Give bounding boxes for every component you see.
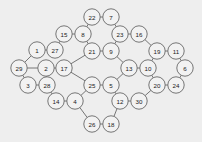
- graph-edge: [71, 55, 85, 63]
- graph-edge: [80, 108, 87, 118]
- graph-edge: [152, 58, 153, 61]
- node-circle[interactable]: [11, 60, 27, 76]
- graph-node[interactable]: 25: [84, 77, 100, 93]
- graph-node[interactable]: 3: [20, 77, 36, 93]
- node-circle[interactable]: [103, 116, 119, 132]
- graph-edge: [23, 75, 24, 78]
- node-circle[interactable]: [112, 93, 128, 109]
- graph-edge: [114, 109, 117, 117]
- node-circle[interactable]: [131, 93, 147, 109]
- graph-node[interactable]: 1: [29, 42, 45, 58]
- graph-node[interactable]: 19: [149, 43, 165, 59]
- graph-node[interactable]: 22: [84, 9, 100, 25]
- node-circle[interactable]: [103, 77, 119, 93]
- graph-node[interactable]: 27: [47, 42, 63, 58]
- node-circle[interactable]: [47, 42, 63, 58]
- graph-edge: [25, 56, 31, 62]
- graph-figure-canvas: 1271582272192316191110613172293281442551…: [0, 0, 202, 142]
- node-circle[interactable]: [39, 77, 55, 93]
- node-circle[interactable]: [168, 43, 184, 59]
- graph-node[interactable]: 16: [131, 26, 147, 42]
- node-circle[interactable]: [48, 93, 64, 109]
- node-circle[interactable]: [84, 9, 100, 25]
- graph-node[interactable]: 18: [103, 116, 119, 132]
- node-layer: 1271582272192316191110613172293281442551…: [11, 9, 193, 132]
- graph-node[interactable]: 17: [56, 60, 72, 76]
- graph-node[interactable]: 5: [103, 77, 119, 93]
- graph-node[interactable]: 23: [112, 26, 128, 42]
- node-circle[interactable]: [29, 42, 45, 58]
- graph-edge: [152, 75, 153, 78]
- graph-node[interactable]: 15: [56, 26, 72, 42]
- node-circle[interactable]: [103, 43, 119, 59]
- graph-edge: [145, 40, 151, 46]
- node-circle[interactable]: [20, 77, 36, 93]
- graph-node[interactable]: 12: [112, 93, 128, 109]
- node-circle[interactable]: [149, 77, 165, 93]
- graph-edge: [81, 91, 86, 96]
- graph-node[interactable]: 28: [39, 77, 55, 93]
- graph-edge: [115, 24, 116, 27]
- node-circle[interactable]: [177, 60, 193, 76]
- node-circle[interactable]: [67, 93, 83, 109]
- graph-node[interactable]: 13: [121, 60, 137, 76]
- graph-edge: [180, 58, 181, 61]
- graph-edge: [117, 57, 123, 63]
- node-circle[interactable]: [75, 26, 91, 42]
- graph-edge: [71, 72, 85, 80]
- node-circle[interactable]: [84, 116, 100, 132]
- node-circle[interactable]: [56, 26, 72, 42]
- node-circle[interactable]: [56, 60, 72, 76]
- graph-edge: [87, 24, 88, 27]
- node-circle[interactable]: [168, 77, 184, 93]
- node-circle[interactable]: [149, 43, 165, 59]
- node-circle[interactable]: [140, 60, 156, 76]
- graph-node[interactable]: 11: [168, 43, 184, 59]
- node-circle[interactable]: [103, 9, 119, 25]
- graph-node[interactable]: 10: [140, 60, 156, 76]
- graph-node[interactable]: 14: [48, 93, 64, 109]
- graph-node[interactable]: 8: [75, 26, 91, 42]
- graph-node[interactable]: 9: [103, 43, 119, 59]
- node-circle[interactable]: [112, 26, 128, 42]
- graph-edge: [87, 41, 88, 44]
- graph-edge: [180, 75, 181, 78]
- graph-edge: [145, 90, 151, 95]
- graph-node[interactable]: 2: [38, 60, 54, 76]
- graph-edge: [117, 74, 123, 80]
- graph-node[interactable]: 21: [84, 43, 100, 59]
- graph-node[interactable]: 26: [84, 116, 100, 132]
- node-circle[interactable]: [131, 26, 147, 42]
- graph-node[interactable]: 29: [11, 60, 27, 76]
- graph-node[interactable]: 20: [149, 77, 165, 93]
- graph-diagram: 1271582272192316191110613172293281442551…: [0, 0, 202, 142]
- graph-node[interactable]: 7: [103, 9, 119, 25]
- graph-node[interactable]: 30: [131, 93, 147, 109]
- graph-node[interactable]: 4: [67, 93, 83, 109]
- graph-node[interactable]: 24: [168, 77, 184, 93]
- node-circle[interactable]: [121, 60, 137, 76]
- graph-edge: [115, 41, 116, 44]
- node-circle[interactable]: [84, 77, 100, 93]
- node-circle[interactable]: [84, 43, 100, 59]
- node-circle[interactable]: [38, 60, 54, 76]
- graph-node[interactable]: 6: [177, 60, 193, 76]
